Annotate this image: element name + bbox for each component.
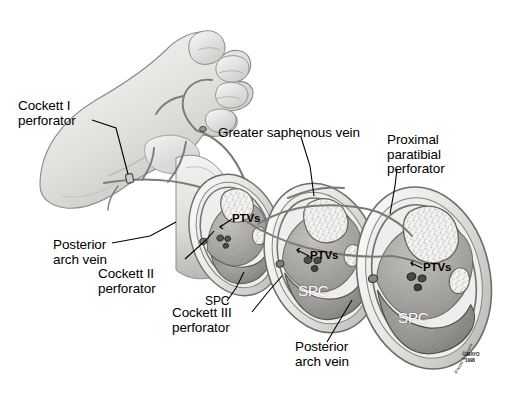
label-cockett-2-perforator: Cockett II perforator xyxy=(98,267,156,296)
label-cockett-3-perforator: Cockett III perforator xyxy=(172,306,232,335)
label-posterior-arch-vein-left: Posterior arch vein xyxy=(53,238,107,267)
leader-posterior-arch-left xyxy=(112,222,176,243)
cross-section-proximal xyxy=(340,174,507,381)
anatomy-artwork xyxy=(0,0,507,404)
label-ptvs-proximal: PTVs xyxy=(423,261,451,274)
label-greater-saphenous-vein: Greater saphenous vein xyxy=(218,126,360,141)
label-proximal-paratibial-perforator: Proximal paratibial perforator xyxy=(387,133,445,177)
label-ptvs-distal: PTVs xyxy=(232,212,260,225)
copyright-year: 1998 xyxy=(465,358,475,363)
label-ptvs-mid: PTVs xyxy=(310,249,338,262)
illustration-canvas: Cockett I perforator Greater saphenous v… xyxy=(0,0,507,404)
label-cockett-1-perforator: Cockett I perforator xyxy=(18,99,76,128)
label-posterior-arch-vein-right: Posterior arch vein xyxy=(295,340,349,369)
label-spc-mid: SPC xyxy=(298,284,329,299)
label-spc-proximal: SPC xyxy=(398,311,429,326)
copyright-mark: © MAYO xyxy=(462,352,479,357)
cockett-1-perforator-marker xyxy=(125,173,134,183)
